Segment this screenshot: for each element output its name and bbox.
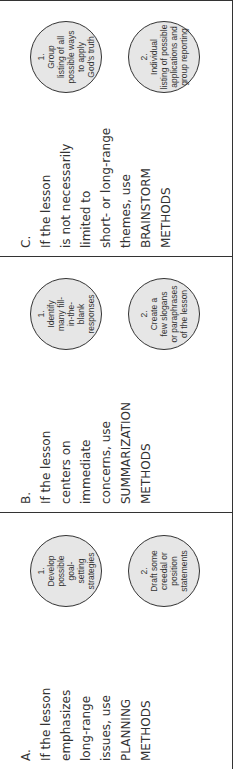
- column-label: B.: [16, 384, 36, 504]
- option-circle-1: 1. Group listing of all possible ways to…: [30, 21, 102, 93]
- text-line: If the lesson: [36, 384, 56, 504]
- option-line: possible: [56, 555, 66, 586]
- text-line: is not necessarily: [56, 128, 76, 248]
- option-circle-2: 2. Create a few slogans or paraphrases o…: [128, 278, 200, 350]
- method-name: SUMMARIZATION: [116, 384, 136, 504]
- option-line: Individual: [149, 39, 159, 75]
- text-line: short- or long-range: [96, 128, 116, 248]
- column-c-text: C. If the lesson is not necessarily limi…: [16, 128, 176, 248]
- option-line: many fill-: [56, 297, 66, 331]
- option-line: position: [169, 556, 179, 585]
- option-line: in-the-: [66, 302, 76, 326]
- column-a-text: A. If the lesson emphasizes long-range i…: [16, 641, 156, 761]
- option-line: or paraphrases: [169, 285, 179, 342]
- option-line: Identify: [46, 300, 56, 327]
- option-line: listing of possible: [159, 25, 169, 90]
- text-line: themes, use: [116, 128, 136, 248]
- method-name: BRAINSTORM: [136, 128, 156, 248]
- option-line: setting: [76, 558, 86, 583]
- method-suffix: METHODS: [136, 384, 156, 504]
- text-line: If the lesson: [36, 128, 56, 248]
- option-line: to apply: [76, 42, 86, 72]
- cropped-footer-text: [236, 0, 249, 769]
- text-line: immediate: [76, 384, 96, 504]
- option-line: few slogans: [159, 292, 169, 337]
- option-line: group reporting: [179, 28, 189, 86]
- option-number: 2.: [139, 567, 149, 574]
- column-label: A.: [16, 641, 36, 761]
- text-line: emphasizes: [56, 641, 76, 761]
- column-b-text: B. If the lesson centers on immediate co…: [16, 384, 156, 504]
- option-line: of the lesson: [179, 290, 189, 338]
- method-name: PLANNING: [116, 641, 136, 761]
- text-line: issues, use: [96, 641, 116, 761]
- option-circle-2: 2. Individual listing of possible applic…: [128, 21, 200, 93]
- option-number: 2.: [139, 53, 149, 60]
- option-line: possible ways: [66, 31, 76, 84]
- option-number: 1.: [36, 310, 46, 317]
- methods-table: A. If the lesson emphasizes long-range i…: [0, 0, 233, 769]
- option-number: 1.: [36, 53, 46, 60]
- option-number: 2.: [139, 310, 149, 317]
- text-line: limited to: [76, 128, 96, 248]
- option-line: strategies: [86, 553, 96, 590]
- rotated-page: A. If the lesson emphasizes long-range i…: [0, 0, 249, 769]
- option-line: Develop: [46, 555, 56, 586]
- method-suffix: METHODS: [156, 128, 176, 248]
- option-circle-1: 1. Develop possible goal- setting strate…: [30, 535, 102, 607]
- text-line: If the lesson: [36, 641, 56, 761]
- option-line: goal-: [66, 562, 76, 581]
- option-circle-2: 2. Draft some creedal or position statem…: [128, 535, 200, 607]
- column-c-brainstorm: C. If the lesson is not necessarily limi…: [0, 0, 232, 257]
- option-line: Group: [46, 45, 56, 69]
- option-line: listing of all: [56, 36, 66, 78]
- column-b-summarization: B. If the lesson centers on immediate co…: [0, 258, 232, 513]
- option-line: responses: [86, 294, 96, 333]
- text-line: long-range: [76, 641, 96, 761]
- option-line: applications and: [169, 26, 179, 87]
- option-line: God's truth: [86, 36, 96, 77]
- option-line: statements: [179, 550, 189, 592]
- option-number: 1.: [36, 567, 46, 574]
- text-line: concerns, use: [96, 384, 116, 504]
- option-circle-1: 1. Identify many fill- in-the- blank res…: [30, 278, 102, 350]
- option-line: creedal or: [159, 552, 169, 590]
- option-line: Draft some: [149, 550, 159, 592]
- method-suffix: METHODS: [136, 641, 156, 761]
- column-a-planning: A. If the lesson emphasizes long-range i…: [0, 515, 232, 769]
- option-line: blank: [76, 304, 86, 324]
- column-label: C.: [16, 128, 36, 248]
- text-line: centers on: [56, 384, 76, 504]
- option-line: Create a: [149, 298, 159, 331]
